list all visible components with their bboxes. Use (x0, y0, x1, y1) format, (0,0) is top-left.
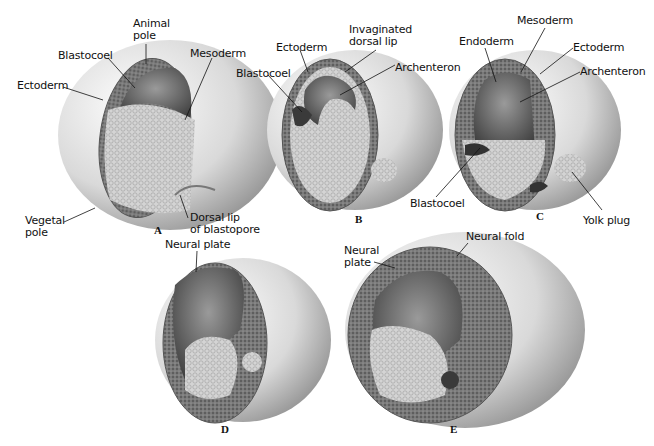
label-ectoderm-a: Ectoderm (17, 80, 68, 92)
label-ectoderm-b: Ectoderm (276, 42, 327, 54)
label-invaginated-dorsal-lip: Invaginated dorsal lip (349, 24, 412, 48)
panel-b-embryo (267, 50, 443, 211)
panel-d-embryo (155, 258, 331, 423)
label-yolk-plug: Yolk plug (583, 215, 630, 227)
label-archenteron-c: Archenteron (580, 66, 645, 78)
panel-letter-d: D (221, 423, 229, 435)
label-vegetal-pole: Vegetal pole (25, 215, 65, 239)
label-neural-plate-d: Neural plate (165, 239, 230, 251)
panel-letter-c: C (536, 210, 544, 222)
panel-letter-b: B (355, 213, 362, 225)
label-blastocoel-c: Blastocoel (410, 198, 465, 210)
label-animal-pole: Animal pole (133, 18, 170, 42)
label-mesoderm-a: Mesoderm (190, 48, 246, 60)
embryo-diagram: Animal pole Blastocoel Mesoderm Ectoderm… (0, 0, 654, 446)
label-mesoderm-c: Mesoderm (517, 15, 573, 27)
panel-letter-e: E (450, 423, 457, 435)
label-ectoderm-c: Ectoderm (573, 42, 624, 54)
label-blastocoel-a: Blastocoel (58, 50, 113, 62)
panel-e-embryo (345, 232, 585, 428)
label-archenteron-b: Archenteron (395, 62, 460, 74)
label-dorsal-lip-blastopore: Dorsal lip of blastopore (190, 212, 260, 236)
diagram-artwork (0, 0, 654, 446)
label-neural-plate-e: Neural plate (344, 245, 379, 269)
label-neural-fold: Neural fold (466, 231, 524, 243)
panel-letter-a: A (154, 224, 162, 236)
label-blastocoel-b: Blastocoel (236, 68, 291, 80)
label-endoderm-c: Endoderm (459, 36, 514, 48)
